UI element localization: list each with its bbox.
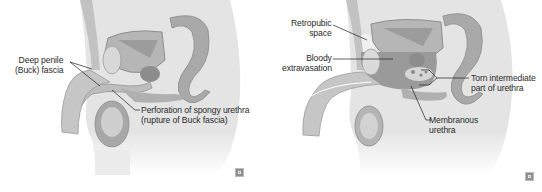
label-bloody-extravasation: Bloody extravasation bbox=[282, 53, 332, 73]
label-line: Perforation of spongy urethra bbox=[141, 105, 249, 115]
label-line: (Buck) fascia bbox=[15, 65, 63, 75]
label-line: Deep penile bbox=[15, 55, 63, 65]
label-line: space bbox=[291, 28, 332, 38]
label-line: Retropubic bbox=[291, 18, 332, 28]
label-perforation-spongy-urethra: Perforation of spongy urethra (rupture o… bbox=[141, 105, 249, 125]
label-deep-penile-fascia: Deep penile (Buck) fascia bbox=[15, 55, 63, 75]
left-panel-spongy-urethra-rupture: Deep penile (Buck) fascia Perforation of… bbox=[0, 0, 271, 192]
pelvis-illustration-left bbox=[0, 0, 271, 192]
label-line: (rupture of Buck fascia) bbox=[141, 115, 249, 125]
label-line: extravasation bbox=[282, 63, 332, 73]
label-torn-intermediate-urethra: Torn intermediate part of urethra bbox=[471, 73, 536, 93]
label-line: Membranous bbox=[429, 115, 478, 125]
publisher-logo-icon bbox=[235, 168, 244, 177]
label-retropubic-space: Retropubic space bbox=[291, 18, 332, 38]
label-line: Torn intermediate bbox=[471, 73, 536, 83]
publisher-logo-icon bbox=[525, 172, 534, 181]
label-line: part of urethra bbox=[471, 83, 536, 93]
right-panel-intermediate-urethra-tear: Retropubic space Bloody extravasation To… bbox=[271, 0, 542, 192]
label-line: urethra bbox=[429, 125, 478, 135]
label-line: Bloody bbox=[282, 53, 332, 63]
label-membranous-urethra: Membranous urethra bbox=[429, 115, 478, 135]
